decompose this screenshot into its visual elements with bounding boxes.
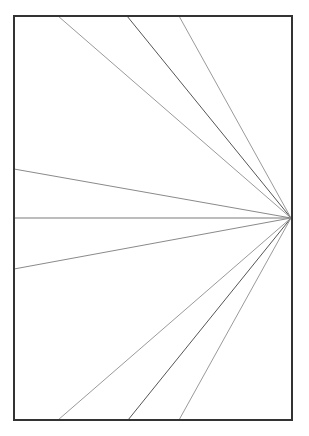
ray-line-left-1 [14,169,291,218]
ray-line-left-3 [14,218,291,269]
ray-group [14,16,291,420]
ray-line-top-2 [127,16,291,218]
ray-line-bottom-3 [179,218,291,420]
ray-line-top-1 [58,16,291,218]
diagram-canvas [0,0,309,436]
ray-line-bottom-2 [128,218,291,420]
ray-line-bottom-1 [58,218,291,420]
ray-line-top-3 [179,16,291,218]
